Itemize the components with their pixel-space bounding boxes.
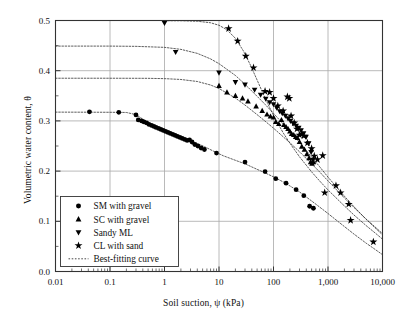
data-point-star (225, 24, 233, 32)
data-point-triangle-up (245, 98, 251, 103)
x-tick-label: 100 (267, 277, 281, 287)
data-point-triangle-up (299, 144, 305, 149)
data-point-triangle-up (279, 117, 285, 122)
y-axis-title: Volumetric water content, θ (23, 50, 33, 250)
x-tick-label: 0.01 (48, 277, 64, 287)
legend-label: Best-fitting curve (94, 254, 159, 264)
data-point-circle (273, 176, 278, 181)
data-point-star (319, 151, 327, 159)
data-point-circle (263, 169, 268, 174)
data-point-triangle-up (233, 93, 239, 98)
data-point-triangle-up (259, 108, 265, 113)
data-point-star (266, 88, 274, 96)
data-point-circle (202, 147, 207, 152)
data-point-circle (284, 181, 289, 186)
legend-label: SC with gravel (94, 215, 150, 225)
x-tick-label: 1,000 (318, 277, 338, 287)
data-point-star (337, 189, 345, 197)
legend-label: Sandy ML (94, 228, 134, 238)
data-point-triangle-down (258, 93, 264, 98)
data-point-star (242, 52, 250, 60)
data-point-triangle-down (162, 21, 168, 26)
x-tick-label: 1 (162, 277, 167, 287)
plot-area-svg: SM with gravelSC with gravelSandy MLCL w… (0, 0, 407, 314)
data-point-circle (294, 187, 299, 192)
y-tick-label: 0.0 (18, 267, 50, 277)
data-point-circle (214, 151, 219, 156)
x-tick-label: 10 (215, 277, 224, 287)
data-point-triangle-up (240, 95, 246, 100)
data-point-triangle-down (252, 88, 258, 93)
data-point-triangle-down (216, 71, 222, 76)
data-point-circle (76, 204, 81, 209)
data-point-triangle-up (216, 83, 222, 88)
data-point-star (347, 216, 355, 224)
data-point-circle (87, 109, 92, 114)
data-point-star (250, 64, 258, 72)
data-point-circle (311, 206, 316, 211)
data-point-circle (116, 110, 121, 115)
data-point-triangle-down (233, 80, 239, 85)
y-tick-label: 0.5 (18, 16, 50, 26)
data-point-triangle-up (224, 89, 230, 94)
x-tick-label: 10,000 (370, 277, 395, 287)
swcc-chart: SM with gravelSC with gravelSandy MLCL w… (0, 0, 407, 314)
legend-label: CL with sand (94, 241, 144, 251)
data-point-star (369, 238, 377, 246)
data-point-star (332, 181, 340, 189)
legend: SM with gravelSC with gravelSandy MLCL w… (61, 197, 179, 267)
x-axis-title: Soil suction, ψ (kPa) (0, 298, 407, 308)
data-point-circle (243, 160, 248, 165)
legend-label: SM with gravel (94, 201, 152, 211)
data-point-circle (134, 112, 139, 117)
data-point-circle (301, 193, 306, 198)
data-point-triangle-down (173, 50, 179, 55)
x-tick-label: 0.1 (104, 277, 115, 287)
data-point-triangle-down (242, 83, 248, 88)
data-point-triangle-up (264, 111, 270, 116)
data-point-triangle-up (253, 103, 259, 108)
